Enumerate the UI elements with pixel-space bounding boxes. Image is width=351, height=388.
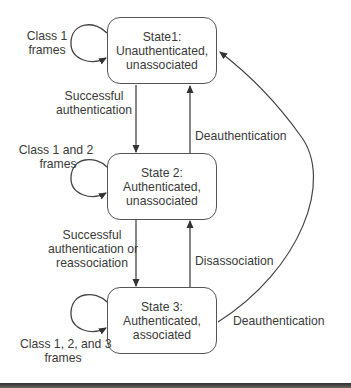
state2-line2: Authenticated, xyxy=(123,180,201,194)
self-loop-state3-label-line1: Class 1, 2, and 3 xyxy=(20,337,106,351)
self-loop-state3-label: Class 1, 2, and 3 frames xyxy=(20,337,106,365)
state2-box: State 2: Authenticated, unassociated xyxy=(107,153,217,220)
state3-box: State 3: Authenticated, associated xyxy=(107,287,217,354)
state1-box: State1: Unauthenticated, unassociated xyxy=(107,17,217,84)
self-loop-state2-label: Class 1 and 2 frames xyxy=(18,143,94,171)
transition-successful-auth-label: Successful authentication xyxy=(56,89,132,117)
self-loop-state1 xyxy=(71,25,107,62)
self-loop-state3-label-line2: frames xyxy=(20,351,106,365)
transition-successful-auth-line2: authentication xyxy=(56,103,132,117)
self-loop-state1-label-line2: frames xyxy=(22,43,72,57)
arrow-state3-to-state1-curve xyxy=(218,52,314,322)
state3-title: State 3: xyxy=(141,300,183,314)
transition-auth-or-reassoc-line1: Successful xyxy=(48,228,136,242)
state2-title: State 2: xyxy=(141,166,183,180)
transition-disassoc-label: Disassociation xyxy=(195,254,274,268)
self-loop-state2-label-line2: frames xyxy=(18,157,94,171)
transition-successful-auth-line1: Successful xyxy=(56,89,132,103)
self-loop-state1-label-line1: Class 1 xyxy=(22,29,72,43)
bottom-border-bar xyxy=(0,383,351,388)
transition-auth-or-reassoc-label: Successful authentication or reassociati… xyxy=(48,228,136,270)
state3-line3: associated xyxy=(133,328,191,342)
self-loop-state2-label-line1: Class 1 and 2 xyxy=(18,143,94,157)
transition-deauth-3-to-1-label: Deauthentication xyxy=(233,314,324,328)
self-loop-state1-label: Class 1 frames xyxy=(22,29,72,57)
state3-line2: Authenticated, xyxy=(123,314,201,328)
state1-line2: Unauthenticated, xyxy=(116,44,208,58)
state2-line3: unassociated xyxy=(126,194,198,208)
self-loop-state3 xyxy=(71,295,107,332)
state-diagram: State1: Unauthenticated, unassociated St… xyxy=(0,0,351,388)
transition-deauth-2-to-1-label: Deauthentication xyxy=(195,129,286,143)
state1-title: State1: xyxy=(143,30,182,44)
transition-auth-or-reassoc-line2: authentication or xyxy=(48,242,136,256)
transition-auth-or-reassoc-line3: reassociation xyxy=(48,256,136,270)
state1-line3: unassociated xyxy=(126,58,198,72)
